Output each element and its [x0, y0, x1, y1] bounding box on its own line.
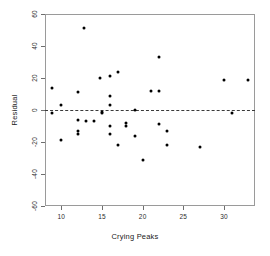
y-tick-mark	[41, 78, 45, 79]
x-tick-label: 15	[98, 213, 106, 220]
y-axis-title: Residual	[10, 95, 19, 126]
y-tick-label: 20	[31, 74, 38, 82]
data-point	[141, 158, 144, 161]
data-point	[76, 118, 79, 121]
data-point	[109, 133, 112, 136]
data-point	[99, 77, 102, 80]
x-tick-mark	[61, 206, 62, 210]
data-point	[157, 123, 160, 126]
data-point	[157, 56, 160, 59]
data-point	[223, 78, 226, 81]
data-point	[60, 139, 63, 142]
y-tick-mark	[41, 174, 45, 175]
data-point	[60, 104, 63, 107]
data-point	[247, 78, 250, 81]
y-tick-label: 60	[31, 10, 38, 18]
x-tick-label: 20	[139, 213, 147, 220]
x-tick-label: 10	[57, 213, 65, 220]
data-point	[117, 70, 120, 73]
x-tick-label: 30	[220, 213, 228, 220]
data-point	[83, 27, 86, 30]
x-tick-mark	[224, 206, 225, 210]
data-point	[157, 89, 160, 92]
x-tick-mark	[143, 206, 144, 210]
x-axis-title: Crying Peaks	[0, 232, 270, 241]
data-point	[109, 125, 112, 128]
data-point	[109, 104, 112, 107]
residual-scatter-figure: 1015202530 -60-40-200204060 Crying Peaks…	[0, 0, 270, 256]
data-point	[100, 112, 103, 115]
y-tick-label: 0	[31, 108, 38, 112]
y-tick-mark	[41, 14, 45, 15]
y-tick-mark	[41, 110, 45, 111]
plot-area	[45, 14, 255, 206]
data-point	[92, 120, 95, 123]
y-tick-label: -40	[31, 169, 38, 179]
data-point	[76, 133, 79, 136]
data-point	[125, 125, 128, 128]
data-point	[166, 129, 169, 132]
data-point	[109, 94, 112, 97]
data-point	[133, 134, 136, 137]
data-point	[109, 75, 112, 78]
x-tick-mark	[183, 206, 184, 210]
y-tick-mark	[41, 206, 45, 207]
data-point	[76, 91, 79, 94]
data-point	[133, 109, 136, 112]
data-point	[84, 120, 87, 123]
data-point	[198, 145, 201, 148]
y-tick-mark	[41, 46, 45, 47]
y-tick-label: 40	[31, 42, 38, 50]
zero-residual-line	[45, 110, 255, 111]
y-tick-label: -60	[31, 201, 38, 211]
data-point	[51, 112, 54, 115]
x-tick-mark	[102, 206, 103, 210]
x-tick-label: 25	[180, 213, 188, 220]
data-point	[231, 112, 234, 115]
y-tick-label: -20	[31, 137, 38, 147]
y-tick-mark	[41, 142, 45, 143]
data-point	[117, 144, 120, 147]
data-point	[149, 89, 152, 92]
data-point	[166, 144, 169, 147]
data-point	[51, 86, 54, 89]
